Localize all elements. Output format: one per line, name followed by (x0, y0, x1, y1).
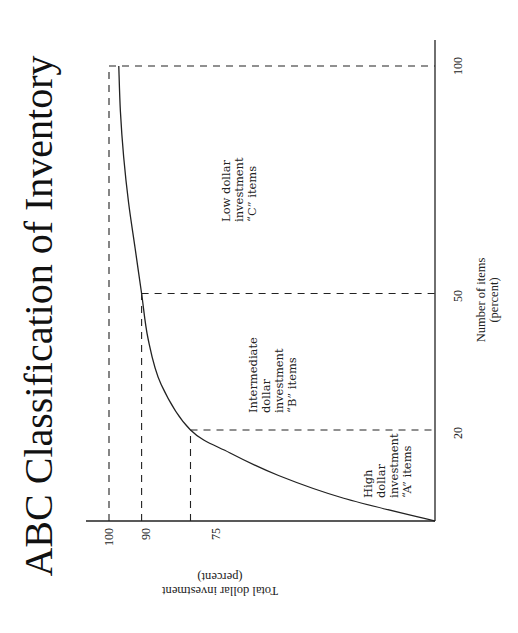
region-b-line4: “B” items (285, 357, 299, 413)
chart-title: ABC Classification of Inventory (16, 55, 61, 576)
region-c-line1: Low dollar (219, 159, 233, 222)
y-tick-100: 100 (102, 528, 116, 546)
region-a-line3: investment (387, 433, 401, 498)
x-tick-50: 50 (451, 290, 465, 302)
region-a-line2: dollar (374, 464, 388, 498)
region-a-line1: High (361, 469, 375, 498)
x-axis-label-line2: (percent) (487, 277, 501, 322)
region-c-line2: investment (232, 157, 246, 222)
y-tick-90: 90 (139, 528, 153, 540)
region-b-label: Intermediate dollar investment “B” items (246, 337, 299, 413)
region-c-line3: “C” items (245, 166, 259, 222)
region-b-line3: investment (272, 348, 286, 413)
y-axis-label-line2: (percent) (197, 570, 242, 584)
region-a-label: High dollar investment “A” items (361, 433, 414, 498)
x-axis-label-line1: Number of items (474, 258, 488, 343)
region-b-line1: Intermediate (246, 337, 260, 413)
region-a-line4: “A” items (400, 445, 414, 498)
region-c-label: Low dollar investment “C” items (219, 157, 259, 222)
x-tick-100: 100 (451, 57, 465, 75)
y-tick-75: 75 (209, 528, 223, 540)
x-tick-20: 20 (451, 427, 465, 439)
y-axis-label-line1: Total dollar investment (162, 584, 278, 598)
region-b-line2: dollar (259, 379, 273, 413)
abc-chart: ABC Classification of Inventory 100 90 7… (0, 0, 518, 633)
